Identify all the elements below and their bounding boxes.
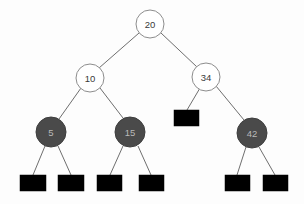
tree-nodes: 20103451542 xyxy=(36,10,267,148)
tree-edge xyxy=(99,33,139,68)
nil-leaf xyxy=(139,175,164,191)
node-label: 42 xyxy=(247,128,258,139)
tree-edge xyxy=(59,88,81,119)
tree-edges xyxy=(33,33,275,175)
tree-node: 42 xyxy=(237,118,267,148)
tree-edge xyxy=(110,146,123,175)
tree-node: 20 xyxy=(136,10,164,38)
tree-edge xyxy=(33,146,45,175)
tree-node: 15 xyxy=(115,117,145,147)
nil-leaf xyxy=(174,110,199,126)
node-label: 15 xyxy=(125,127,136,138)
tree-edge xyxy=(216,86,244,120)
binary-tree-diagram: 20103451542 xyxy=(0,0,304,204)
nil-leaf xyxy=(97,175,122,191)
tree-edge xyxy=(58,146,71,175)
node-label: 20 xyxy=(145,19,156,30)
tree-edge xyxy=(161,33,197,67)
nil-leaf xyxy=(20,175,46,191)
tree-node: 5 xyxy=(36,117,66,147)
nil-leaf xyxy=(263,175,288,191)
tree-canvas: 20103451542 xyxy=(0,0,304,204)
node-label: 5 xyxy=(48,127,53,138)
nil-leaf xyxy=(225,175,250,191)
tree-edge xyxy=(237,147,246,175)
node-label: 34 xyxy=(201,72,212,83)
tree-edge xyxy=(259,147,275,175)
tree-edge xyxy=(138,146,151,175)
tree-edge xyxy=(187,88,200,110)
node-label: 10 xyxy=(85,73,96,84)
tree-node: 34 xyxy=(192,63,220,91)
tree-edge xyxy=(100,88,123,118)
tree-node: 10 xyxy=(76,64,104,92)
nil-leaf xyxy=(58,175,84,191)
